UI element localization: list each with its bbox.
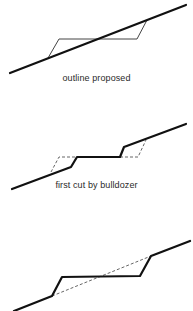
panel-final-cut <box>14 241 190 311</box>
caption-first-cut: first cut by bulldozer <box>0 180 193 190</box>
caption-outline-proposed: outline proposed <box>0 73 193 83</box>
terrace-construction-diagram <box>0 0 193 311</box>
panel-outline-proposed <box>10 5 186 73</box>
final-terrace-profile <box>14 241 190 311</box>
ground-slope-line <box>10 5 186 73</box>
